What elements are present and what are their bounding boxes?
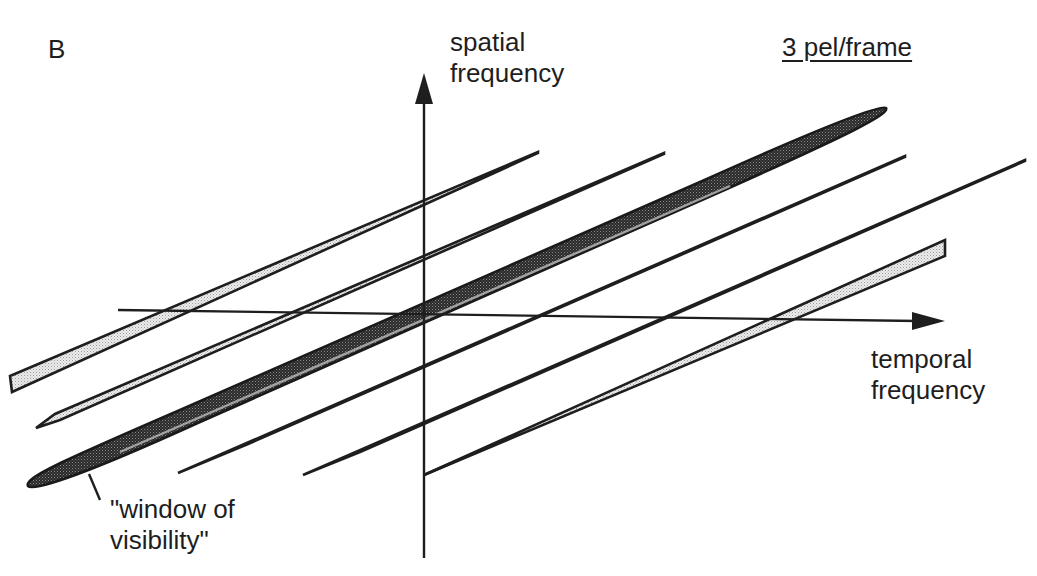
window-of-visibility xyxy=(28,108,887,487)
window-label-line1: "window of xyxy=(110,494,235,525)
x-axis-label-line2: frequency xyxy=(871,375,985,406)
window-label-leader xyxy=(89,474,100,500)
replica-band-1 xyxy=(10,152,538,392)
spectrum-figure: B spatial frequency 3 pel/frame temporal… xyxy=(0,0,1037,576)
panel-label: B xyxy=(48,34,65,65)
y-axis-label-line2: frequency xyxy=(450,58,564,89)
x-axis-label-line1: temporal xyxy=(871,344,985,375)
y-axis-label-line1: spatial xyxy=(450,27,564,58)
x-axis-arrowhead-icon xyxy=(912,312,945,330)
speed-label: 3 pel/frame xyxy=(782,32,912,63)
y-axis-label: spatial frequency xyxy=(450,27,564,89)
y-axis-arrowhead-icon xyxy=(415,73,433,104)
window-label-line2: visibility" xyxy=(110,525,235,556)
window-of-visibility-label: "window of visibility" xyxy=(110,494,235,556)
x-axis-label: temporal frequency xyxy=(871,344,985,406)
replica-band-2 xyxy=(36,153,664,428)
